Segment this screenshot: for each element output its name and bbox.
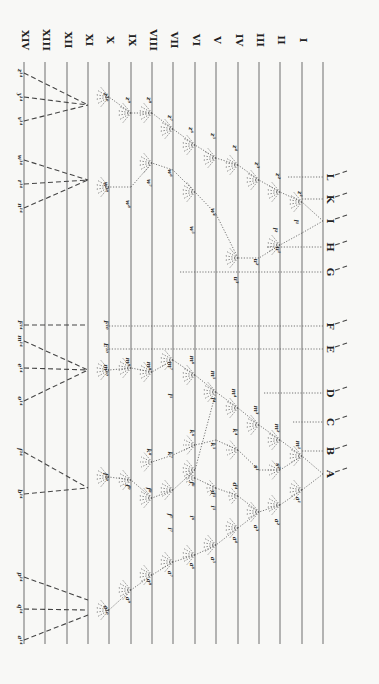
species-tick	[335, 241, 347, 245]
branch	[144, 565, 152, 575]
lineage-label: l⁵	[167, 394, 174, 399]
gen-xiv-label: w¹⁴	[17, 155, 24, 166]
branch	[182, 190, 195, 192]
dashed-projection	[24, 488, 88, 494]
branch	[302, 456, 323, 474]
branch	[280, 456, 302, 470]
branch	[208, 535, 216, 545]
branch	[294, 480, 302, 490]
generation-lines	[24, 62, 323, 644]
branch	[302, 221, 323, 233]
gen-xiv-label: p¹⁴	[16, 572, 24, 582]
branch	[144, 462, 152, 471]
dashed-projection	[24, 341, 88, 370]
lineage-label: a²	[274, 519, 281, 526]
lineage-label: w⁴	[210, 208, 217, 216]
branch	[293, 202, 302, 213]
dashed-projection	[24, 368, 88, 370]
gen-x-label: z¹⁰	[103, 92, 110, 102]
dashed-projection	[24, 97, 88, 105]
branch	[225, 256, 238, 258]
gen-x-label: w¹⁰	[103, 182, 110, 193]
lineage-label: m¹	[295, 441, 302, 450]
lineage-label: l⁴	[210, 398, 217, 403]
generation-label: II	[276, 35, 287, 45]
generation-label: VII	[169, 30, 180, 48]
branch	[302, 202, 323, 221]
branch	[195, 478, 216, 488]
branch	[182, 375, 195, 377]
lineage-label: a⁴	[232, 537, 239, 544]
lineage-label: f⁶	[188, 480, 196, 487]
branch	[139, 575, 152, 577]
labels: XIVXIIIXIIXIXIXVIIIVIIVIVIVIIIIIILKIHGFE…	[16, 28, 336, 645]
lineage-label: a⁹	[125, 597, 132, 604]
species-letter: C	[325, 418, 336, 426]
diagram-canvas: XIVXIIIXIIXIXIXVIIIVIIVIVIVIIIIIILKIHGFE…	[0, 0, 379, 684]
lineage-label: w⁸	[125, 200, 132, 208]
lineage-label: z⁵	[210, 132, 217, 139]
dashed-projection	[24, 577, 88, 600]
branch	[187, 375, 195, 385]
gen-xiv-label: m¹⁴	[17, 335, 24, 347]
branch	[246, 510, 259, 512]
lineage-label: k⁴	[232, 429, 239, 436]
lineage-label: m⁵	[210, 371, 217, 380]
lineage-label: u²	[253, 259, 260, 266]
gen-x-label: E¹⁰	[103, 342, 110, 353]
branch	[139, 498, 152, 500]
branch	[182, 192, 195, 194]
species-tick	[335, 468, 347, 472]
branch	[118, 480, 131, 482]
species-letter: A	[325, 469, 336, 478]
branch	[203, 545, 216, 547]
generation-label: VIII	[148, 28, 159, 51]
species-tick	[335, 193, 347, 197]
branch	[187, 436, 195, 445]
branch	[230, 518, 238, 528]
branch	[272, 495, 280, 505]
branch	[165, 552, 173, 562]
species-letter: F	[325, 322, 336, 329]
gen-xiv-label: y¹⁴	[16, 92, 24, 102]
extrapolated-dashes	[24, 73, 347, 640]
lineage-label: a³	[253, 525, 260, 532]
branch	[225, 526, 238, 528]
branch	[144, 498, 152, 508]
lineage-label: m⁶	[189, 356, 196, 365]
gen-xiv-label: z¹⁴	[17, 68, 24, 78]
lineage-label: a¹	[295, 497, 302, 504]
lineage-label: w⁵	[189, 226, 196, 234]
gen-xiv-label: v¹⁴	[17, 117, 24, 126]
branch	[118, 590, 131, 592]
gen-xiv-label: n¹⁴	[17, 203, 24, 213]
branch	[225, 408, 238, 410]
dashed-projection	[24, 180, 88, 184]
dashed-projection	[24, 615, 88, 640]
lineage-label: l¹	[293, 220, 300, 225]
branch	[123, 580, 131, 590]
species-letter: L	[325, 173, 336, 180]
branch	[238, 496, 259, 512]
generation-label: IV	[234, 34, 245, 47]
species-letter: K	[325, 195, 336, 204]
branch	[228, 491, 238, 496]
gen-x-label: f¹⁰	[102, 472, 110, 481]
branch	[246, 512, 259, 514]
branch	[182, 553, 195, 555]
lineage-label: l²	[272, 228, 279, 233]
gen-x-label: a¹⁰	[103, 605, 110, 615]
branch	[225, 528, 238, 530]
branch	[267, 243, 280, 245]
branch	[139, 163, 152, 165]
species-tick	[335, 343, 347, 347]
dashed-projection	[24, 180, 88, 208]
lineage-label: d⁴	[232, 483, 239, 490]
lineage-label: z²	[275, 172, 282, 179]
branch	[187, 192, 195, 202]
species-tick	[335, 266, 347, 270]
branch	[195, 545, 216, 555]
branch	[139, 573, 152, 575]
species-tick	[335, 416, 347, 420]
branch	[250, 180, 259, 191]
